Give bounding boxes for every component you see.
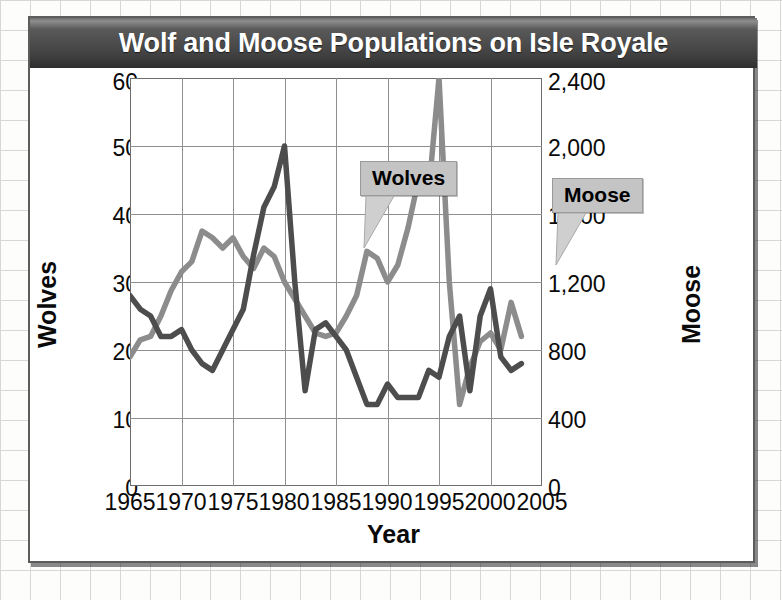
y-tick-right-2400: 2,400 [548, 71, 606, 94]
chart-area: Wolves Moose Year 60 50 40 30 20 10 0 2,… [30, 68, 757, 563]
x-tick-1990: 1990 [361, 489, 412, 516]
x-tick-1995: 1995 [413, 489, 464, 516]
figure-card: Wolf and Moose Populations on Isle Royal… [28, 16, 755, 563]
y-tick-right-400: 400 [548, 409, 586, 432]
y-tick-right-800: 800 [548, 341, 586, 364]
callout-wolves: Wolves [360, 161, 457, 196]
x-tick-2000: 2000 [464, 489, 515, 516]
x-tick-1965: 1965 [104, 489, 155, 516]
page-root: Wolf and Moose Populations on Isle Royal… [0, 0, 782, 600]
x-tick-1975: 1975 [207, 489, 258, 516]
x-tick-2005: 2005 [516, 489, 567, 516]
callout-wolves-tail [360, 196, 430, 251]
x-axis-title: Year [30, 520, 757, 549]
x-tick-1985: 1985 [310, 489, 361, 516]
callout-wolves-label: Wolves [372, 166, 445, 189]
x-tick-1970: 1970 [155, 489, 206, 516]
y-tick-right-2000: 2,000 [548, 137, 606, 160]
chart-title: Wolf and Moose Populations on Isle Royal… [119, 28, 668, 59]
chart-svg [130, 78, 542, 486]
title-banner: Wolf and Moose Populations on Isle Royal… [30, 18, 757, 68]
y-axis-left-title: Wolves [33, 261, 62, 348]
x-tick-1980: 1980 [258, 489, 309, 516]
callout-moose: Moose [552, 178, 643, 213]
plot-area [130, 78, 542, 486]
callout-moose-label: Moose [564, 183, 631, 206]
y-tick-right-1200: 1,200 [548, 273, 606, 296]
y-axis-right-title: Moose [677, 265, 706, 344]
callout-moose-tail [552, 213, 622, 268]
